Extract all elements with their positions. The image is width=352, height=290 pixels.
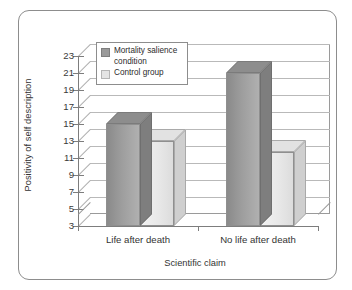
legend-label-line2: condition (114, 57, 147, 66)
bar-side-face (294, 140, 306, 226)
y-axis-tick-label: 21 (48, 67, 74, 78)
bar-mortality-salience-condition-life-after-death (106, 112, 140, 226)
y-axis-tick-label: 11 (48, 152, 74, 163)
y-axis-depth-line (78, 163, 91, 176)
y-axis-depth-line (78, 214, 91, 227)
y-axis-tick-label: 9 (48, 169, 74, 180)
y-axis-depth-line (78, 146, 91, 159)
y-axis-tick-label: 7 (48, 186, 74, 197)
x-axis-tick-mark (78, 226, 79, 231)
legend-entry-mortality-salience: Mortality salience condition (101, 46, 183, 67)
x-axis-category-label: No life after death (198, 234, 318, 245)
bar-side-face (260, 61, 272, 226)
y-axis-title: Positivity of self description (23, 50, 33, 220)
bar-side-face (174, 129, 186, 226)
y-axis-depth-line (78, 61, 91, 74)
y-axis-depth-line (78, 112, 91, 125)
x-axis-tick-mark (198, 226, 199, 231)
bar-chart: Positivity of self description 232119171… (0, 0, 352, 290)
y-axis-tick-label: 5 (48, 203, 74, 214)
dark-gray-swatch-icon (101, 48, 110, 57)
x-axis-category-label: Life after death (78, 234, 198, 245)
y-axis-tick-label: 17 (48, 101, 74, 112)
legend-entry-control-group: Control group (101, 68, 183, 79)
y-axis-tick-label: 15 (48, 118, 74, 129)
y-axis-tick-label: 3 (48, 220, 74, 231)
y-axis-tick-label: 13 (48, 135, 74, 146)
bar-front-face (106, 124, 140, 226)
bar-mortality-salience-condition-no-life-after-death (226, 61, 260, 226)
y-axis-tick-label: 19 (48, 84, 74, 95)
y-axis-tick-label: 23 (48, 50, 74, 61)
legend-label-control-group: Control group (114, 68, 164, 79)
chart-legend: Mortality salience condition Control gro… (96, 42, 188, 85)
light-gray-swatch-icon (101, 70, 110, 79)
x-axis-tick-mark (318, 226, 319, 231)
y-axis-depth-line (78, 95, 91, 108)
y-axis-depth-line (78, 180, 91, 193)
bar-side-face (140, 112, 152, 226)
legend-label-mortality-salience: Mortality salience condition (114, 46, 177, 67)
y-axis-line (78, 56, 79, 226)
bar-front-face (226, 73, 260, 226)
legend-label-line1: Mortality salience (114, 46, 177, 55)
x-axis-title: Scientific claim (60, 258, 330, 268)
gridline (90, 95, 330, 96)
y-axis-depth-line (78, 44, 91, 57)
y-axis-depth-line (78, 129, 91, 142)
y-axis-depth-line (78, 78, 91, 91)
